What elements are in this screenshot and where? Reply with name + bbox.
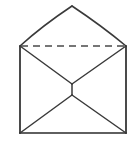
envelope-figure — [0, 0, 139, 143]
envelope-line-drawing — [0, 0, 139, 143]
